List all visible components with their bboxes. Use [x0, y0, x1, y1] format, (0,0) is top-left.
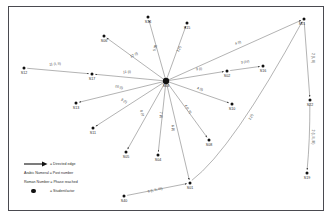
node-S10[interactable] [231, 103, 234, 106]
node-dot-icon [31, 189, 36, 194]
node-S19[interactable] [306, 172, 309, 175]
edge-S21-S22 [304, 22, 310, 97]
node-label-S40: S40 [121, 199, 128, 203]
edge-label-S03-S02: 3 (I) [196, 67, 203, 72]
node-S14[interactable] [147, 16, 150, 19]
node-S04[interactable] [157, 154, 160, 157]
edge-S22-S19 [307, 103, 310, 170]
node-label-S08: S08 [206, 143, 213, 147]
edge-label-S03-S17: 11 (I) [123, 70, 131, 74]
node-label-S03: S03 [163, 84, 170, 88]
edge-S03-S01 [167, 84, 190, 180]
node-S01[interactable] [189, 182, 192, 185]
student-actor-icon [24, 189, 50, 194]
edge-label-S03-S01: 6 (I) [171, 125, 176, 132]
node-S06[interactable] [103, 35, 106, 38]
node-S15[interactable] [186, 22, 189, 25]
node-label-S10: S10 [229, 107, 236, 111]
node-label-S11: S11 [90, 131, 96, 135]
legend-row-student-actor: = Student/actor [24, 187, 120, 195]
node-label-S05: S05 [123, 155, 130, 159]
edge-label-S21-S22: 2 (I, II) [311, 53, 315, 63]
edge-label-S03-S04: 7 (I) [159, 112, 164, 119]
network-diagram-figure: S14S15S06S21S16S02S12S17S22S10S13S11S08S… [0, 0, 335, 224]
node-label-S12: S12 [21, 71, 28, 75]
node-label-S04: S04 [155, 158, 162, 162]
legend-row-directed-edge: = Directed edge [24, 160, 120, 168]
edge-S02-S16 [230, 66, 260, 70]
node-label-S22: S22 [307, 103, 314, 107]
legend-row-roman-number: Roman Number = Phase reached [24, 178, 120, 186]
node-S11[interactable] [92, 127, 95, 130]
edge-S12-S17 [27, 68, 89, 73]
edge-S03-S10 [169, 82, 229, 103]
node-label-S16: S16 [260, 69, 267, 73]
node-S17[interactable] [91, 73, 94, 76]
node-label-S01: S01 [187, 186, 194, 190]
node-S05[interactable] [125, 151, 128, 154]
edge-label-S22-S19: 2 (I, II, III) [311, 130, 315, 145]
legend-row-arabic-numeral: Arabic Numeral = Post number [24, 169, 120, 177]
legend-label-arabic-numeral: Arabic Numeral = Post number [24, 171, 73, 175]
node-S13[interactable] [75, 102, 78, 105]
node-label-S19: S19 [304, 176, 311, 180]
legend-label-directed-edge: = Directed edge [50, 162, 75, 166]
edge-S03-S15 [167, 26, 186, 78]
node-S16[interactable] [262, 65, 265, 68]
node-S22[interactable] [309, 99, 312, 102]
node-S02[interactable] [226, 70, 229, 73]
edge-S03-S17 [95, 74, 163, 80]
legend-label-student-actor: = Student/actor [50, 189, 74, 193]
node-S08[interactable] [208, 139, 211, 142]
node-label-S06: S06 [101, 39, 108, 43]
node-label-S21: S21 [299, 22, 306, 26]
node-S12[interactable] [23, 67, 26, 70]
node-label-S02: S02 [224, 74, 231, 78]
legend: = Directed edge Arabic Numeral = Post nu… [24, 160, 120, 196]
node-label-S15: S15 [184, 26, 191, 30]
node-S40[interactable] [123, 195, 126, 198]
directed-edge-icon [24, 161, 50, 167]
edge-S01-S21 [192, 22, 302, 181]
node-label-S14: S14 [145, 20, 152, 24]
legend-label-roman-number: Roman Number = Phase reached [24, 180, 78, 184]
edge-S03-S14 [149, 20, 165, 78]
edge-label-S12-S17: 11 (I, II) [49, 62, 61, 67]
node-label-S17: S17 [89, 77, 96, 81]
edge-S03-S11 [96, 83, 164, 127]
node-S21[interactable] [303, 18, 306, 21]
node-label-S13: S13 [73, 106, 80, 110]
